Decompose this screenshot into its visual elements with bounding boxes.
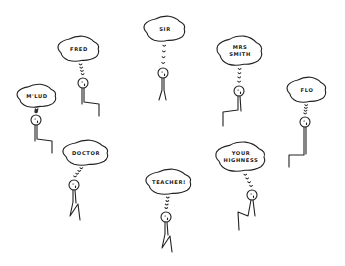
thought-dots-fred: [81, 74, 84, 75]
face-sir: [162, 72, 165, 76]
body-doctor: [70, 190, 80, 220]
thought-dots-flo: [305, 105, 308, 106]
head-flo: [300, 117, 310, 127]
thought-dots-flo: [304, 113, 307, 114]
body-mrs-smith: [223, 96, 241, 126]
body-flo: [289, 127, 306, 167]
thought-dots-sir: [163, 45, 166, 46]
thought-text-your-highness: YOURHIGHNESS: [224, 150, 259, 164]
thought-dots-teacher: [166, 201, 169, 202]
body-sir: [159, 78, 166, 100]
face-mrs-smith: [238, 90, 241, 94]
face-fred: [82, 82, 85, 86]
thought-dots-doctor: [76, 173, 79, 174]
head-fred: [78, 78, 88, 88]
head-sir: [158, 68, 168, 78]
thought-dots-mrs-smith: [238, 69, 241, 70]
thought-dots-mrs-smith: [238, 81, 241, 82]
thought-dots-doctor: [80, 168, 83, 169]
thought-dots-flo: [304, 110, 307, 111]
thought-dots-mrs-smith: [238, 77, 241, 78]
thought-dots-flo: [305, 108, 308, 109]
face-doctor: [73, 184, 76, 188]
thought-dots-sir: [163, 51, 166, 52]
stick-figure-drawing: [0, 0, 345, 266]
thought-dots-fred: [79, 64, 82, 65]
head-doctor: [69, 180, 79, 190]
thought-dots-sir: [162, 63, 165, 64]
head-your-highness: [247, 190, 257, 200]
thought-dots-teacher: [165, 204, 168, 205]
thought-text-teacher: TEACHER!: [152, 179, 186, 186]
thought-text-doctor: DOCTOR: [72, 150, 100, 157]
thought-dots-teacher: [167, 197, 170, 198]
thought-text-sir: SIR: [159, 26, 170, 33]
face-mlud: [35, 119, 38, 123]
thought-dots-fred: [81, 71, 84, 72]
head-mrs-smith: [234, 86, 244, 96]
thought-dots-doctor: [78, 171, 81, 172]
body-teacher: [162, 222, 172, 252]
thought-dots-your-highness: [250, 186, 253, 187]
thought-dots-doctor: [74, 176, 77, 177]
thought-text-mlud: M'LUD: [26, 93, 47, 100]
face-flo: [304, 121, 307, 125]
thought-dots-sir: [162, 57, 165, 58]
thought-text-flo: FLO: [301, 87, 314, 94]
thought-dots-teacher: [165, 208, 168, 209]
head-mlud: [31, 115, 41, 125]
thought-dots-your-highness: [248, 182, 251, 183]
thought-dots-your-highness: [244, 174, 247, 175]
head-teacher: [161, 212, 171, 222]
body-mlud: [35, 125, 52, 153]
thought-dots-mrs-smith: [238, 73, 241, 74]
face-your-highness: [251, 194, 254, 198]
body-your-highness: [238, 200, 255, 230]
face-teacher: [165, 216, 168, 220]
thought-dots-your-highness: [246, 178, 249, 179]
illustration-canvas: [0, 0, 345, 266]
thought-text-fred: FRED: [70, 46, 88, 53]
thought-text-mrs-smith: MRSSMITH: [229, 44, 251, 58]
body-fred: [82, 88, 99, 116]
thought-dots-fred: [80, 67, 83, 68]
